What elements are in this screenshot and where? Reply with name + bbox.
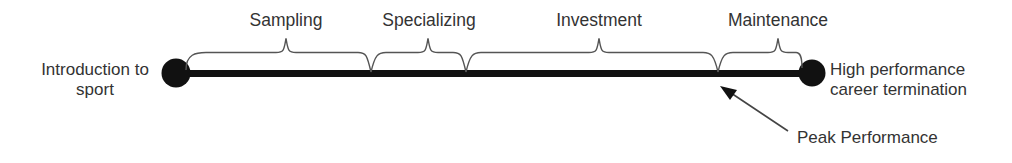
right-endpoint-label: High performance career termination [830, 60, 967, 100]
left-endpoint-label-line1: Introduction to [41, 60, 149, 80]
right-endpoint-label-line2: career termination [830, 80, 967, 100]
diagram-canvas: Sampling Specializing Investment Mainten… [0, 0, 1012, 163]
left-endpoint-label-line2: sport [41, 80, 149, 100]
brace-maintenance [718, 39, 802, 73]
stage-label-investment: Investment [556, 10, 642, 30]
brace-specializing [371, 39, 466, 73]
left-endpoint-label: Introduction to sport [41, 60, 149, 100]
brace-investment [466, 39, 718, 73]
right-endpoint-label-line1: High performance [830, 60, 967, 80]
stage-label-maintenance: Maintenance [728, 10, 828, 30]
stage-label-sampling: Sampling [250, 10, 323, 30]
peak-performance-arrow [720, 86, 788, 131]
left-endpoint-dot [162, 59, 191, 88]
stage-label-specializing: Specializing [382, 10, 475, 30]
peak-performance-label: Peak Performance [797, 128, 938, 148]
brace-sampling [186, 39, 371, 73]
